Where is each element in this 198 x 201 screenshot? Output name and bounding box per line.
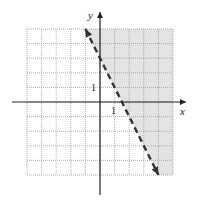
y-axis-label: y: [88, 10, 93, 21]
x-axis-label: x: [180, 106, 185, 117]
x-tick-1: 1: [111, 106, 116, 116]
graph: [0, 0, 198, 201]
y-tick-1: 1: [91, 83, 96, 93]
